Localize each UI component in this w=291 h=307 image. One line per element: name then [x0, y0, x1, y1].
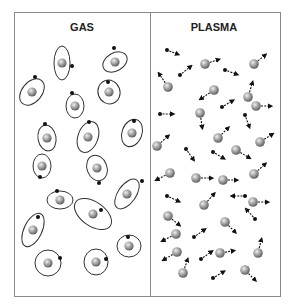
- gas-panel-title: GAS: [70, 21, 94, 33]
- ion-icon: [152, 141, 162, 151]
- ion-icon: [218, 175, 228, 185]
- nucleus-icon: [28, 225, 37, 234]
- gas-vs-plasma-diagram: GAS PLASMA: [0, 0, 291, 307]
- ion-icon: [240, 265, 250, 275]
- nucleus-icon: [124, 241, 133, 250]
- ion-icon: [195, 108, 205, 118]
- bound-electron-icon: [70, 91, 74, 95]
- bound-electron-icon: [132, 119, 136, 123]
- bound-electron-icon: [38, 175, 42, 179]
- bound-electron-icon: [33, 75, 37, 79]
- bound-electron-icon: [97, 181, 101, 185]
- bound-electron-icon: [55, 189, 59, 193]
- free-electron-icon: [253, 217, 257, 221]
- nucleus-icon: [104, 87, 113, 96]
- nucleus-icon: [127, 128, 136, 137]
- bound-electron-icon: [36, 215, 40, 219]
- free-electron-icon: [220, 105, 224, 109]
- nucleus-icon: [27, 87, 36, 96]
- bound-electron-icon: [104, 257, 108, 261]
- ion-icon: [163, 82, 173, 92]
- ion-icon: [213, 133, 223, 143]
- free-electron-icon: [192, 235, 196, 239]
- ion-icon: [171, 229, 181, 239]
- ion-icon: [178, 268, 188, 278]
- bound-electron-icon: [106, 80, 110, 84]
- nucleus-icon: [88, 209, 97, 218]
- ion-icon: [220, 217, 230, 227]
- nucleus-icon: [91, 257, 100, 266]
- bound-electron-icon: [126, 235, 130, 239]
- ion-icon: [200, 59, 210, 69]
- plasma-panel-title: PLASMA: [191, 21, 238, 33]
- nucleus-icon: [83, 132, 92, 141]
- ion-icon: [172, 247, 182, 257]
- bound-electron-icon: [70, 64, 74, 68]
- free-electron-icon: [165, 48, 169, 52]
- ion-icon: [249, 169, 259, 179]
- free-electron-icon: [223, 68, 227, 72]
- bound-electron-icon: [43, 122, 47, 126]
- ion-icon: [163, 211, 173, 221]
- free-electron-icon: [211, 150, 215, 154]
- ion-icon: [255, 137, 265, 147]
- nucleus-icon: [92, 163, 101, 172]
- ion-icon: [249, 59, 259, 69]
- ion-icon: [248, 197, 258, 207]
- ion-icon: [209, 85, 219, 95]
- free-electron-icon: [243, 113, 247, 117]
- nucleus-icon: [122, 189, 131, 198]
- bound-electron-icon: [140, 179, 144, 183]
- bound-electron-icon: [58, 256, 62, 260]
- nucleus-icon: [43, 258, 52, 267]
- free-electron-icon: [158, 112, 162, 116]
- free-electron-icon: [211, 276, 215, 280]
- free-electron-icon: [165, 194, 169, 198]
- ion-icon: [243, 92, 253, 102]
- bound-electron-icon: [112, 46, 116, 50]
- ion-icon: [251, 101, 261, 111]
- nucleus-icon: [55, 195, 64, 204]
- free-electron-icon: [243, 194, 247, 198]
- nucleus-icon: [57, 58, 66, 67]
- ion-icon: [215, 248, 225, 258]
- nucleus-icon: [37, 161, 46, 170]
- bound-electron-icon: [87, 120, 91, 124]
- ion-icon: [165, 168, 175, 178]
- free-electron-icon: [178, 73, 182, 77]
- nucleus-icon: [42, 133, 51, 142]
- free-electron-icon: [184, 147, 188, 151]
- ion-icon: [199, 200, 209, 210]
- ion-icon: [253, 248, 263, 258]
- bound-electron-icon: [99, 208, 103, 212]
- nucleus-icon: [110, 57, 119, 66]
- ion-icon: [231, 145, 241, 155]
- nucleus-icon: [70, 101, 79, 110]
- ion-icon: [191, 173, 201, 183]
- free-electron-icon: [199, 257, 203, 261]
